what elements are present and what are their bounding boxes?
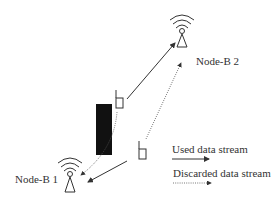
node-b2-label: Node-B 2 [196,56,239,67]
used-stream-phone1-to-nodeb2 [127,43,175,99]
legend-used-label: Used data stream [172,144,248,155]
discarded-stream-phone2-to-nodeb2 [146,63,181,139]
node-b2-tower-icon [170,15,194,47]
legend-discarded-label: Discarded data stream [173,168,271,179]
obstacle-block [96,104,112,155]
node-b1-tower-icon [58,158,82,192]
node-b1-label: Node-B 1 [15,174,58,185]
mobile-phone-1-icon [116,90,123,108]
mobile-phone-2-icon [139,141,146,159]
